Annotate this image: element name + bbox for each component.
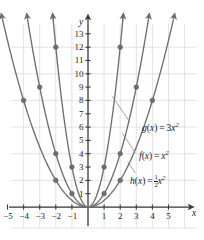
data-point: [150, 98, 155, 103]
y-tick-label: 4: [79, 149, 84, 159]
y-tick-label: 9: [79, 82, 84, 92]
y-tick-label: 8: [79, 95, 84, 105]
y-tick-label: 6: [79, 122, 84, 132]
y-tick-label: 12: [75, 42, 84, 52]
data-point: [134, 85, 139, 90]
data-point: [102, 165, 107, 170]
x-tick-label: 4: [150, 211, 155, 221]
y-tick-label: 5: [79, 135, 84, 145]
figure-container: −5−4−3−2−11234512345678910111213xyg(x) =…: [0, 0, 204, 240]
x-axis-name: x: [192, 208, 196, 218]
data-point: [53, 45, 58, 50]
data-point: [102, 191, 107, 196]
data-point: [70, 191, 75, 196]
y-tick-label: 1: [79, 189, 84, 199]
data-point: [118, 151, 123, 156]
y-tick-label: 10: [75, 69, 84, 79]
y-tick-label: 7: [79, 109, 84, 119]
x-tick-label: 2: [118, 211, 123, 221]
data-point: [118, 45, 123, 50]
x-tick-label: −5: [3, 211, 13, 221]
function-label-f: f(x) = x2: [139, 149, 169, 161]
x-tick-label: −2: [52, 211, 62, 221]
data-point: [118, 178, 123, 183]
x-tick-label: −1: [68, 211, 78, 221]
data-point: [70, 165, 75, 170]
x-tick-label: −4: [19, 211, 29, 221]
x-tick-label: −3: [35, 211, 45, 221]
parabola-comparison-chart: [0, 0, 204, 240]
data-point: [53, 178, 58, 183]
function-label-g: g(x) = 3x2: [142, 121, 179, 133]
x-tick-label: 3: [134, 211, 139, 221]
x-tick-label: 1: [102, 211, 107, 221]
y-tick-label: 11: [75, 55, 84, 65]
x-tick-label: 5: [166, 211, 171, 221]
data-point: [37, 85, 42, 90]
y-tick-label: 13: [75, 29, 84, 39]
data-point: [21, 98, 26, 103]
y-tick-label: 3: [79, 162, 84, 172]
function-label-h: h(x) = 12x2: [130, 174, 165, 189]
data-point: [53, 151, 58, 156]
y-axis-name: y: [79, 17, 83, 27]
y-tick-label: 2: [79, 175, 84, 185]
